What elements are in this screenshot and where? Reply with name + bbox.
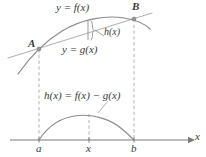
point-b-marker	[132, 17, 136, 21]
equation-leader-line	[98, 101, 108, 113]
gap-leader-line	[95, 30, 104, 36]
point-a-label: A	[28, 38, 35, 49]
tick-x-label: x	[86, 143, 91, 154]
point-b-label: B	[132, 1, 139, 12]
difference-equation-label: h(x) = f(x) − g(x)	[44, 90, 121, 101]
gap-brace-icon	[91, 21, 94, 40]
figure-canvas	[0, 0, 206, 157]
x-axis-arrow-icon	[188, 137, 195, 143]
point-a-marker	[37, 47, 41, 51]
curve-h-difference	[39, 115, 134, 140]
axis-x-label: x	[195, 131, 200, 142]
gap-label: h(x)	[104, 27, 120, 37]
curve-f-label: y = f(x)	[56, 2, 89, 13]
tick-a-label: a	[36, 143, 42, 154]
tick-b-label: b	[131, 143, 137, 154]
line-g-label: y = g(x)	[62, 44, 98, 55]
calculus-difference-figure: y = f(x) y = g(x) h(x) A B h(x) = f(x) −…	[0, 0, 206, 157]
